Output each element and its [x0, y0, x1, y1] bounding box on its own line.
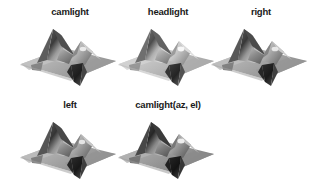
peaks-surface-svg	[115, 20, 221, 90]
peaks-surface-svg	[17, 113, 123, 183]
surface-plot-left	[17, 113, 123, 183]
panel-label-left: left	[17, 99, 123, 111]
camlight-comparison-figure: camlight	[0, 0, 319, 185]
panel-label-camlight-az-el: camlight(az, el)	[115, 99, 221, 111]
panel-label-right: right	[208, 6, 314, 18]
panel-label-headlight: headlight	[115, 6, 221, 18]
panel-left: left	[17, 99, 123, 185]
panel-headlight: headlight	[115, 6, 221, 98]
surface-plot-camlight	[17, 20, 123, 90]
peaks-surface-svg	[115, 113, 221, 183]
surface-plot-camlight-az-el	[115, 113, 221, 183]
surface-plot-headlight	[115, 20, 221, 90]
surface-plot-right	[208, 20, 314, 90]
peaks-surface-svg	[208, 20, 314, 90]
panel-label-camlight: camlight	[17, 6, 123, 18]
peaks-surface-svg	[17, 20, 123, 90]
panel-camlight-az-el: camlight(az, el)	[115, 99, 221, 185]
panel-camlight: camlight	[17, 6, 123, 98]
panel-right: right	[208, 6, 314, 98]
